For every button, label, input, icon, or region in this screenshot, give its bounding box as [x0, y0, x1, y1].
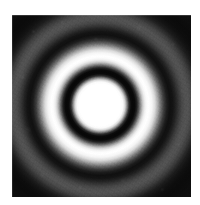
diffraction-image-plate: central bright disk first dark ring firs… [12, 15, 191, 197]
coarse-grain-texture [12, 15, 191, 197]
figure-caption [0, 0, 1, 1]
figure-root: central bright disk first dark ring firs… [0, 0, 200, 205]
